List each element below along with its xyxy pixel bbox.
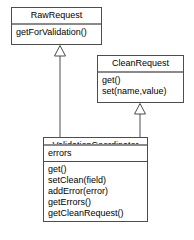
class-methods-validationcoordinator: get() setClean(field) addError(error) ge…	[44, 161, 147, 221]
hollow-triangle-arrowhead-icon	[55, 46, 66, 57]
class-method: getCleanRequest()	[48, 208, 144, 219]
class-box-validationcoordinator[interactable]: ValidationCoordinator errors get() setCl…	[43, 137, 148, 222]
class-method: get()	[102, 75, 180, 86]
class-method: set(name,value)	[102, 86, 180, 97]
class-box-cleanrequest[interactable]: CleanRequest get() set(name,value)	[97, 55, 184, 103]
class-method: setClean(field)	[48, 175, 144, 186]
class-method: getForValidation()	[16, 27, 98, 38]
uml-class-diagram: RawRequest getForValidation() CleanReque…	[0, 0, 194, 240]
class-attribute: errors	[48, 148, 144, 159]
class-name-rawrequest: RawRequest	[12, 8, 101, 25]
class-attributes-validationcoordinator: errors	[44, 146, 147, 161]
class-name-cleanrequest: CleanRequest	[98, 56, 183, 73]
class-method: getErrors()	[48, 197, 144, 208]
generalization-validationcoordinator-to-cleanrequest	[135, 104, 146, 138]
hollow-triangle-arrowhead-icon	[135, 104, 146, 115]
generalization-validationcoordinator-to-rawrequest	[55, 46, 66, 138]
class-methods-rawrequest: getForValidation()	[12, 25, 101, 40]
class-method: addError(error)	[48, 186, 144, 197]
class-method: get()	[48, 164, 144, 175]
class-box-rawrequest[interactable]: RawRequest getForValidation()	[11, 7, 102, 45]
class-name-validationcoordinator: ValidationCoordinator	[44, 138, 147, 146]
class-methods-cleanrequest: get() set(name,value)	[98, 73, 183, 99]
